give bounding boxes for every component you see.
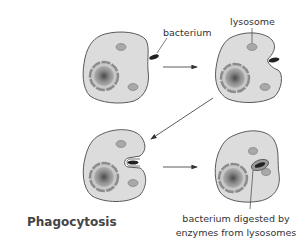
lysosome xyxy=(260,84,270,91)
cell-stage-3 xyxy=(83,130,145,202)
cell-stage-1 xyxy=(83,32,148,103)
cell-stage-4 xyxy=(215,131,279,209)
lysosome-label: lysosome xyxy=(230,17,275,27)
nucleus xyxy=(219,164,247,192)
nucleus xyxy=(90,62,118,90)
bacterium xyxy=(128,161,139,165)
bacterium xyxy=(149,53,160,61)
bacterium-leader-line xyxy=(157,38,167,53)
diagram-title: Phagocytosis xyxy=(27,215,117,229)
caption-line-1: bacterium digested by xyxy=(172,212,297,226)
cell-stage-2 xyxy=(216,28,282,103)
nucleus xyxy=(90,163,118,191)
caption-line-2: enzymes from lysosomes xyxy=(172,226,297,240)
lysosome xyxy=(247,44,257,51)
arrow-2-to-3 xyxy=(151,98,213,139)
nucleus xyxy=(221,64,249,92)
lysosome xyxy=(116,44,126,51)
digestion-caption: bacterium digested by enzymes from lysos… xyxy=(172,212,297,240)
lysosome xyxy=(128,180,138,187)
bacterium-label: bacterium xyxy=(163,28,211,38)
phagocytosis-diagram xyxy=(0,0,297,246)
lysosome xyxy=(116,141,126,148)
lysosome xyxy=(249,148,258,155)
lysosome xyxy=(128,84,138,91)
